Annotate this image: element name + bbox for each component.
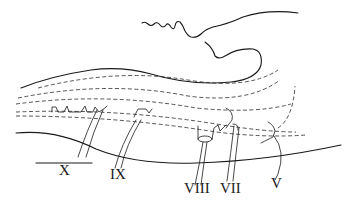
label-v: V (271, 176, 282, 191)
label-viii: VIII (184, 181, 210, 196)
ix-nerve (115, 120, 141, 168)
x-rootlets (52, 106, 107, 112)
tract-5 (16, 116, 306, 136)
tract-6 (278, 86, 295, 128)
label-ix: IX (110, 167, 126, 182)
label-vii: VII (220, 181, 241, 196)
v-nerve (274, 136, 281, 180)
viii-root-walls (198, 125, 226, 139)
upper-outline (142, 12, 298, 38)
viii-root (198, 136, 212, 142)
cerebellum-outline (21, 42, 261, 88)
lower-outline (16, 132, 341, 163)
label-x: X (59, 163, 70, 178)
tract-3 (16, 99, 291, 110)
tract-4 (16, 111, 296, 132)
v-root (261, 122, 275, 143)
diagram-canvas (0, 0, 352, 203)
